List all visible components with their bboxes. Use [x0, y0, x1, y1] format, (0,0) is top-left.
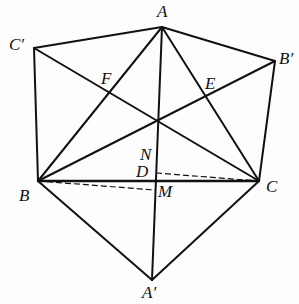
segment-Bp-C — [259, 61, 275, 181]
segment-A-C — [162, 27, 259, 181]
label-F: F — [101, 70, 111, 87]
label-D: D — [136, 163, 148, 180]
dashed-B-M — [38, 181, 155, 190]
label-A: A — [157, 3, 167, 20]
segment-A-Ap — [152, 27, 162, 280]
geometry-diagram: A C′ B′ F E N D B M C A′ — [0, 0, 299, 304]
label-N: N — [140, 146, 151, 163]
label-Bp: B′ — [279, 50, 293, 67]
segment-Cp-A — [34, 27, 162, 48]
label-M: M — [158, 183, 172, 200]
label-B: B — [19, 187, 29, 204]
label-C: C — [266, 178, 277, 195]
label-E: E — [205, 75, 215, 92]
segment-A-Bp — [162, 27, 275, 61]
segment-Cp-B — [34, 48, 38, 181]
label-Ap: A′ — [142, 284, 156, 301]
label-Cp: C′ — [9, 36, 24, 53]
segment-B-Ap — [38, 181, 152, 280]
